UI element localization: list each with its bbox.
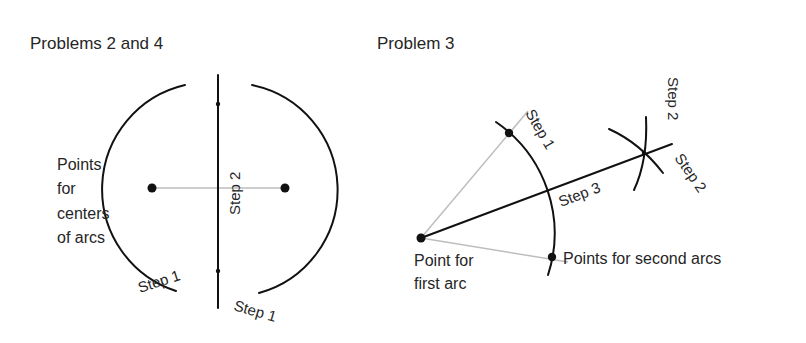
points-for-second-arcs-label: Points for second arcs [563, 250, 721, 267]
panel-problem-3: Problem 3 Step 1 Step 3 Step 2 Step 2 Po… [377, 34, 721, 292]
panel-problems-2-4: Problems 2 and 4 Points for centers of a… [30, 34, 338, 325]
vertex-point [417, 234, 426, 243]
arc-cross-point [642, 151, 646, 155]
svg-text:first arc: first arc [414, 275, 466, 292]
construction-diagram: Problems 2 and 4 Points for centers of a… [0, 0, 806, 343]
intersection-top [216, 102, 220, 106]
step3-label: Step 3 [556, 178, 603, 209]
center-point-left [148, 184, 157, 193]
svg-text:for: for [57, 180, 76, 197]
svg-text:Point for: Point for [414, 252, 474, 269]
panel-title: Problems 2 and 4 [30, 34, 163, 53]
second-arc-point-upper [505, 129, 513, 137]
svg-text:Points: Points [57, 156, 101, 173]
second-arc-point-lower [548, 253, 556, 261]
intersection-bottom [216, 269, 220, 273]
step1-right-label: Step 1 [232, 297, 278, 325]
arc-from-left-center [252, 85, 338, 293]
points-for-centers-label: Points for centers of arcs [57, 156, 109, 246]
panel-title: Problem 3 [377, 34, 454, 53]
step1-label: Step 1 [522, 106, 558, 152]
svg-text:centers: centers [57, 205, 109, 222]
step2-right-label: Step 2 [672, 150, 711, 195]
center-point-right [281, 184, 290, 193]
step2-label: Step 2 [226, 172, 243, 215]
point-for-first-arc-label: Point for first arc [414, 252, 474, 292]
angle-bisector-line [421, 144, 672, 238]
svg-text:of arcs: of arcs [57, 229, 105, 246]
step2-top-label: Step 2 [665, 77, 682, 120]
